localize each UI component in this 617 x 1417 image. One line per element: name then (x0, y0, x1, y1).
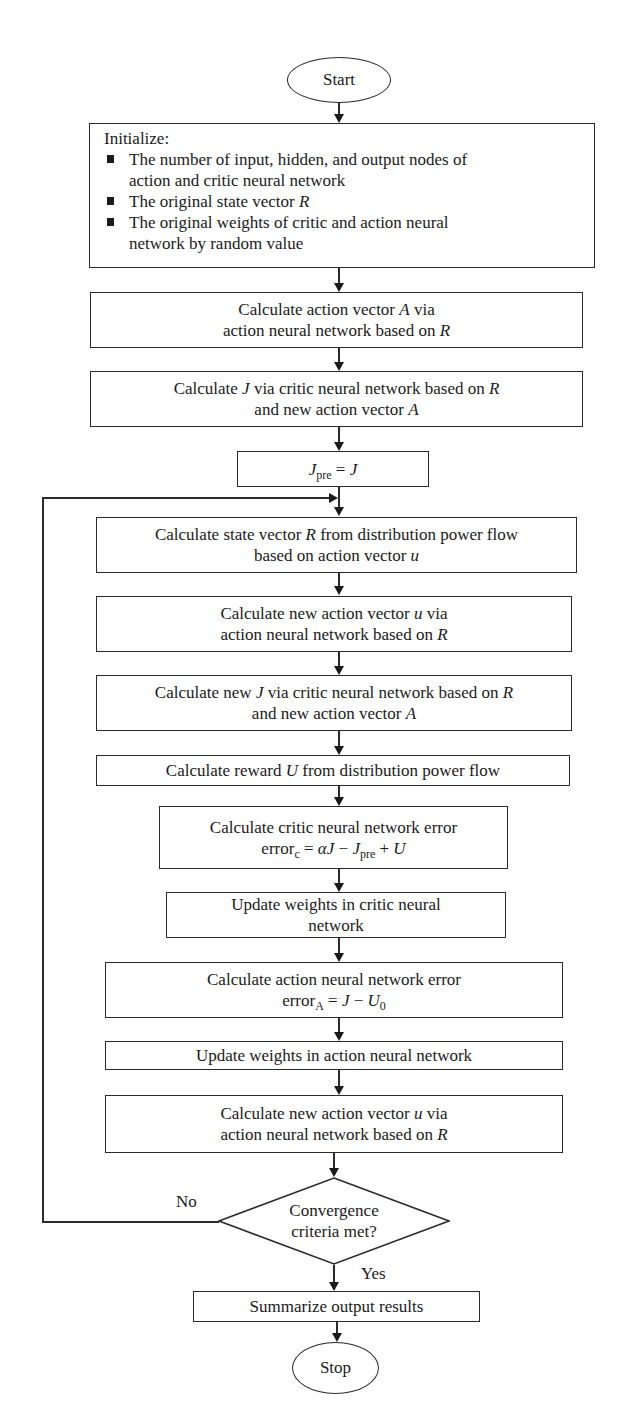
connector (338, 1070, 340, 1086)
initialize-item: The original state vector R (104, 191, 467, 212)
decision-label-line2: criteria met? (291, 1221, 376, 1242)
arrow-head-icon (334, 797, 344, 806)
step-calculate-new-j: Calculate new J via critic neural networ… (96, 675, 572, 731)
step-calculate-action-vector-a: Calculate action vector A via action neu… (90, 292, 583, 348)
square-bullet-icon (107, 197, 114, 205)
step-calculate-j: Calculate J via critic neural network ba… (90, 371, 583, 427)
initialize-item: The number of input, hidden, and output … (104, 149, 467, 191)
step-calculate-state-vector-r: Calculate state vector R from distributi… (96, 517, 577, 573)
arrow-head-icon (334, 507, 344, 516)
initialize-item: The original weights of critic and actio… (104, 212, 467, 254)
connector (338, 869, 340, 883)
initialize-box: Initialize: The number of input, hidden,… (89, 123, 595, 268)
step-update-critic-weights: Update weights in critic neural network (166, 892, 506, 938)
arrow-head-icon (334, 586, 344, 595)
connector (338, 348, 340, 362)
square-bullet-icon (107, 218, 114, 226)
connector (338, 731, 340, 746)
connector (338, 427, 340, 442)
arrow-head-icon (329, 1282, 339, 1291)
step-summarize-output: Summarize output results (193, 1291, 480, 1322)
arrow-head-icon (329, 1168, 339, 1177)
connector (338, 573, 340, 586)
arrow-head-icon (334, 442, 344, 451)
decision-label-line1: Convergence (289, 1200, 378, 1221)
arrow-head-icon (334, 746, 344, 755)
step-jpre-assign: Jpre = J (237, 451, 429, 487)
step-calculate-critic-error: Calculate critic neural network error er… (159, 806, 508, 869)
arrow-head-icon (334, 114, 344, 123)
step-update-action-weights: Update weights in action neural network (105, 1041, 563, 1070)
connector (338, 786, 340, 797)
square-bullet-icon (107, 155, 114, 163)
arrow-head-icon (329, 493, 338, 503)
arrow-head-icon (332, 1333, 342, 1342)
no-branch-label: No (176, 1192, 197, 1212)
arrow-head-icon (334, 362, 344, 371)
connector (338, 938, 340, 953)
initialize-list: The number of input, hidden, and output … (104, 149, 467, 254)
arrow-head-icon (334, 1032, 344, 1041)
step-calculate-reward-u: Calculate reward U from distribution pow… (96, 755, 570, 786)
connector (336, 1322, 338, 1333)
stop-label: Stop (320, 1358, 351, 1378)
connector (338, 268, 340, 284)
connector (333, 1153, 335, 1168)
initialize-header: Initialize: (104, 128, 169, 149)
arrow-head-icon (334, 953, 344, 962)
start-terminal: Start (287, 57, 391, 103)
stop-terminal: Stop (292, 1342, 379, 1394)
connector (338, 487, 340, 508)
arrow-head-icon (334, 1086, 344, 1095)
loop-back-connector-top (42, 497, 329, 499)
start-label: Start (323, 70, 355, 90)
loop-back-connector-bottom (42, 1221, 219, 1223)
connector (338, 652, 340, 666)
connector-yes (333, 1265, 335, 1282)
arrow-head-icon (334, 666, 344, 675)
yes-branch-label: Yes (361, 1264, 386, 1284)
step-calculate-new-action-vector-u: Calculate new action vector u via action… (96, 596, 572, 652)
loop-back-connector-left (42, 497, 44, 1222)
connector (338, 1018, 340, 1032)
step-calculate-new-action-vector-u-2: Calculate new action vector u via action… (105, 1095, 563, 1153)
arrow-head-icon (334, 883, 344, 892)
step-calculate-action-error: Calculate action neural network error er… (105, 962, 563, 1018)
decision-convergence: Convergence criteria met? (218, 1177, 450, 1265)
arrow-head-icon (334, 283, 344, 292)
